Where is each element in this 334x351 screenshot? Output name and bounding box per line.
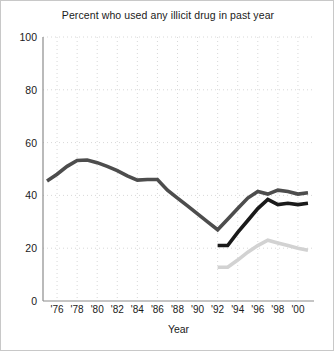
x-tick-label: '86 <box>151 304 164 315</box>
series-line-series-black <box>218 199 308 245</box>
x-tick-label: '82 <box>111 304 124 315</box>
gridlines <box>43 37 314 301</box>
y-tick-label: 40 <box>3 189 37 201</box>
y-tick-label: 20 <box>3 242 37 254</box>
x-tick-label: '84 <box>131 304 144 315</box>
y-tick-label: 0 <box>3 295 37 307</box>
axis-lines <box>43 37 314 301</box>
y-tick-label: 100 <box>3 31 37 43</box>
x-tick-label: '00 <box>291 304 304 315</box>
chart-title: Percent who used any illicit drug in pas… <box>1 9 334 21</box>
x-tick-label: '90 <box>191 304 204 315</box>
plot-area <box>43 37 314 301</box>
x-tick-label: '80 <box>91 304 104 315</box>
y-axis-tick-labels: 020406080100 <box>1 37 37 301</box>
x-tick-label: '88 <box>171 304 184 315</box>
series-line-series-light-gray <box>218 240 308 267</box>
x-tick-label: '94 <box>231 304 244 315</box>
x-tick-label: '78 <box>71 304 84 315</box>
chart-figure: Percent who used any illicit drug in pas… <box>0 0 334 351</box>
y-tick-label: 60 <box>3 137 37 149</box>
series-line-series-dark-gray <box>47 160 308 230</box>
x-tick-label: '76 <box>51 304 64 315</box>
x-tick-label: '96 <box>251 304 264 315</box>
x-axis-title: Year <box>43 323 314 335</box>
y-tick-label: 80 <box>3 84 37 96</box>
plot-svg <box>43 37 314 301</box>
x-tick-label: '92 <box>211 304 224 315</box>
x-axis-tick-labels: '76'78'80'82'84'86'88'90'92'94'96'98'00 <box>43 304 314 320</box>
x-tick-label: '98 <box>271 304 284 315</box>
